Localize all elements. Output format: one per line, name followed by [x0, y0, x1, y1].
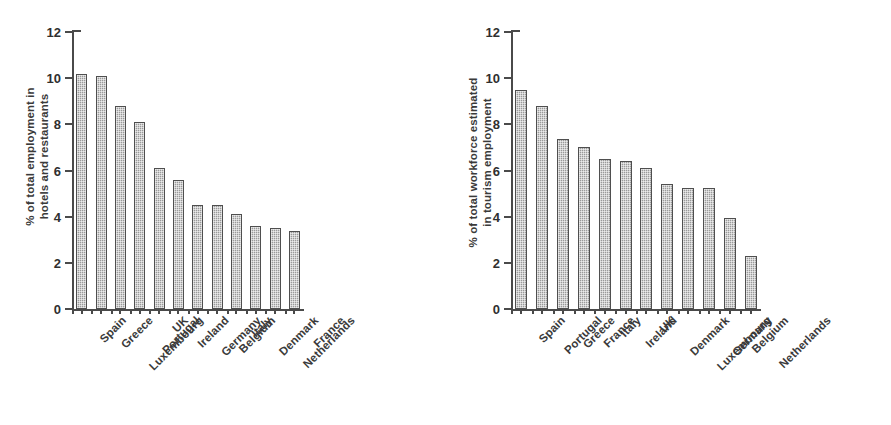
bar-right-france	[578, 147, 590, 309]
bar-right-germany	[703, 188, 715, 309]
bar-left-uk	[154, 168, 165, 309]
bar-right-italy	[599, 159, 611, 309]
y-tick-label-right-2: 2	[493, 255, 500, 270]
figure-two-bar-charts: % of total employment in hotels and rest…	[0, 0, 891, 425]
y-axis-title-left-line2: hotels and restaurants	[38, 13, 52, 300]
y-tick-right-4	[504, 216, 511, 218]
y-tick-right-0	[504, 308, 511, 310]
bar-left-greece	[96, 76, 107, 309]
y-tick-right-2	[504, 262, 511, 264]
bar-series-right	[511, 32, 761, 309]
bar-left-portugal	[134, 122, 145, 309]
bar-left-luxembourg	[115, 106, 126, 309]
bar-left-ireland	[173, 180, 184, 309]
x-axis-label-right-spain: Spain	[537, 314, 568, 345]
y-tick-left-8	[65, 123, 72, 125]
y-tick-label-right-12: 12	[486, 25, 500, 40]
y-tick-label-right-6: 6	[493, 163, 500, 178]
bar-left-france	[289, 231, 300, 309]
bar-right-uk	[640, 168, 652, 309]
bar-right-ireland	[620, 161, 632, 309]
y-tick-right-10	[504, 77, 511, 79]
y-tick-left-2	[65, 262, 72, 264]
bar-left-netherlands	[270, 228, 281, 309]
bar-right-portugal	[536, 106, 548, 309]
bar-left-germany	[192, 205, 203, 309]
bar-left-italy	[231, 214, 242, 309]
y-tick-right-8	[504, 123, 511, 125]
bar-right-belgium	[724, 218, 736, 309]
y-tick-label-right-8: 8	[493, 117, 500, 132]
y-tick-label-left-12: 12	[47, 25, 61, 40]
y-axis-title-right-line1: % of total workforce estimated	[467, 78, 479, 248]
bar-right-greece	[557, 139, 569, 309]
bar-right-spain	[515, 90, 527, 309]
y-axis-title-left: % of total employment in hotels and rest…	[24, 13, 51, 300]
y-tick-left-6	[65, 170, 72, 172]
y-tick-right-12	[504, 31, 511, 33]
y-tick-label-left-4: 4	[54, 209, 61, 224]
y-tick-left-10	[65, 77, 72, 79]
bar-right-netherlands	[745, 256, 757, 309]
y-tick-left-12	[65, 31, 72, 33]
bar-series-left	[72, 32, 304, 309]
bar-right-denmark	[661, 184, 673, 309]
y-tick-label-left-8: 8	[54, 117, 61, 132]
bar-left-belgium	[212, 205, 223, 309]
y-tick-right-6	[504, 170, 511, 172]
y-tick-label-right-4: 4	[493, 209, 500, 224]
y-tick-label-left-10: 10	[47, 71, 61, 86]
chart-panel-left: % of total employment in hotels and rest…	[0, 0, 445, 425]
y-axis-title-right: % of total workforce estimated in touris…	[467, 19, 494, 306]
x-axis-label-right-denmark: Denmark	[688, 314, 732, 358]
bar-right-luxembourg	[682, 188, 694, 309]
chart-panel-right: % of total workforce estimated in touris…	[445, 0, 890, 425]
y-tick-label-right-10: 10	[486, 71, 500, 86]
bar-left-denmark	[250, 226, 261, 309]
plot-area-left: 024681012	[72, 32, 304, 309]
y-tick-left-4	[65, 216, 72, 218]
y-tick-label-left-2: 2	[54, 255, 61, 270]
y-axis-title-left-line1: % of total employment in	[24, 87, 36, 226]
bar-left-spain	[76, 74, 87, 309]
plot-area-right: 024681012	[511, 32, 761, 309]
y-tick-label-left-6: 6	[54, 163, 61, 178]
x-axis-labels-left: SpainGreeceLuxembourgPortugalUKIrelandGe…	[0, 314, 445, 424]
x-axis-labels-right: SpainPortugalGreeceFranceItalyIrelandUKD…	[445, 314, 890, 424]
y-tick-left-0	[65, 308, 72, 310]
